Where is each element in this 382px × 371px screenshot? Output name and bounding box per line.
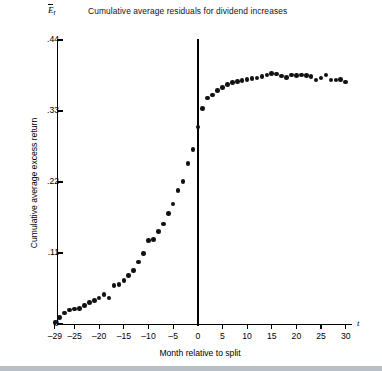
data-point xyxy=(299,73,304,78)
chart-figure: Cumulative average residuals for dividen… xyxy=(0,0,382,371)
y-axis-title: Cumulative average excess return xyxy=(29,73,39,293)
data-point xyxy=(176,188,181,193)
data-point xyxy=(92,298,97,303)
data-point xyxy=(117,282,122,287)
data-point xyxy=(112,283,117,288)
data-point xyxy=(186,161,191,166)
x-tick-mark xyxy=(345,324,346,329)
x-tick-mark xyxy=(320,324,321,329)
data-point xyxy=(156,229,161,234)
x-tick-mark xyxy=(271,324,272,329)
data-point xyxy=(205,96,210,101)
x-axis-title: Month relative to split xyxy=(120,348,280,358)
data-point xyxy=(72,307,77,312)
data-point xyxy=(284,75,289,80)
data-point xyxy=(122,278,127,283)
y-tick-label: .11 xyxy=(19,247,59,257)
data-point xyxy=(57,315,62,320)
x-axis-variable-symbol: t xyxy=(357,318,360,328)
x-tick-mark xyxy=(123,324,124,329)
data-point xyxy=(131,268,136,273)
x-tick-mark xyxy=(74,324,75,329)
data-point xyxy=(171,202,176,207)
data-point xyxy=(240,78,245,83)
data-point xyxy=(62,311,67,316)
data-point xyxy=(87,300,92,305)
data-point xyxy=(260,74,265,79)
data-point xyxy=(77,306,82,311)
data-point xyxy=(329,78,334,83)
data-point xyxy=(126,273,131,278)
data-point xyxy=(250,76,255,81)
data-point xyxy=(334,78,339,83)
x-tick-mark xyxy=(197,318,199,326)
data-point xyxy=(279,74,284,79)
data-point xyxy=(136,260,141,265)
data-point xyxy=(235,79,240,84)
data-point xyxy=(265,73,270,78)
x-tick-mark xyxy=(222,324,223,329)
data-point xyxy=(82,303,87,308)
data-point xyxy=(210,93,215,98)
data-point xyxy=(215,88,220,93)
data-point xyxy=(220,85,225,90)
data-point xyxy=(324,73,329,78)
data-point xyxy=(309,74,314,79)
y-tick-label: .33 xyxy=(19,105,59,115)
data-point xyxy=(200,106,205,111)
x-tick-mark xyxy=(148,324,149,329)
data-point xyxy=(151,237,156,242)
data-point xyxy=(314,78,319,83)
x-tick-mark xyxy=(173,324,174,329)
data-point xyxy=(53,320,58,325)
y-tick-label: .22 xyxy=(19,176,59,186)
event-month-vertical-line xyxy=(197,39,199,325)
data-point xyxy=(343,80,348,85)
data-point xyxy=(319,76,324,81)
data-point xyxy=(146,238,151,243)
data-point xyxy=(107,296,112,301)
data-point xyxy=(338,77,343,82)
x-tick-mark xyxy=(296,324,297,329)
page-edge-band xyxy=(0,366,382,371)
data-point xyxy=(67,308,72,313)
data-point xyxy=(191,147,196,152)
data-point xyxy=(294,73,299,78)
data-point xyxy=(225,82,230,87)
data-point xyxy=(230,80,235,85)
data-point xyxy=(166,211,171,216)
data-point xyxy=(245,77,250,82)
x-tick-label: 30 xyxy=(331,331,361,341)
data-point xyxy=(161,222,166,227)
data-point xyxy=(255,76,260,81)
data-point xyxy=(181,179,186,184)
data-point xyxy=(269,71,274,76)
data-point xyxy=(196,125,201,130)
data-point xyxy=(274,72,279,77)
data-point xyxy=(102,292,107,297)
data-point xyxy=(289,73,294,78)
y-axis-variable-symbol: Er xyxy=(48,5,56,16)
data-point xyxy=(141,251,146,256)
data-point xyxy=(97,296,102,301)
chart-title: Cumulative average residuals for dividen… xyxy=(88,6,287,16)
y-tick-label: .44 xyxy=(19,34,59,44)
data-point xyxy=(304,73,309,78)
x-tick-mark xyxy=(247,324,248,329)
x-tick-mark xyxy=(99,324,100,329)
y-axis-variable-letter: E xyxy=(48,5,54,15)
x-axis-line xyxy=(57,324,352,325)
